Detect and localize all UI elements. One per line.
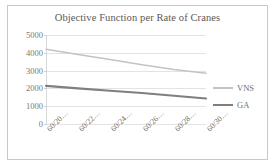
legend-label: GA	[237, 100, 249, 110]
y-axis-tick-label: 4000	[26, 48, 43, 58]
x-axis-labels: 60/20…60/22…60/24…60/26…60/28…60/30…	[46, 124, 206, 164]
y-axis-tick-label: 3000	[26, 66, 43, 76]
y-axis-tick-label: 2000	[26, 83, 43, 93]
legend-swatch-vns	[213, 87, 233, 89]
plot-wrap: 010002000300040005000 60/20…60/22…60/24……	[8, 6, 269, 161]
chart-frame: Objective Function per Rate of Cranes 01…	[7, 5, 268, 160]
legend: VNSGA	[213, 79, 268, 113]
y-axis-tick-label: 0	[39, 119, 43, 129]
y-axis-tick-label: 1000	[26, 101, 43, 111]
legend-swatch-ga	[213, 104, 233, 106]
y-axis-tick-label: 5000	[26, 30, 43, 40]
y-axis-labels: 010002000300040005000	[8, 35, 43, 124]
legend-item-vns[interactable]: VNS	[213, 79, 268, 96]
series-line-vns	[46, 49, 206, 73]
legend-label: VNS	[237, 83, 254, 93]
series-line-ga	[46, 86, 206, 99]
legend-item-ga[interactable]: GA	[213, 96, 268, 113]
